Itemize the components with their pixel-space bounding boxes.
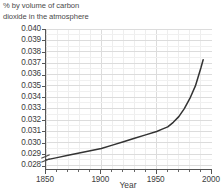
y-axis-tick-label: 0.032 [1, 116, 41, 124]
x-axis-tick-mark-minor [134, 170, 135, 172]
y-axis-tick-label: 0.034 [1, 93, 41, 101]
chart-figure: % by volume of carbon dioxide in the atm… [0, 0, 222, 192]
data-series-layer [46, 29, 212, 169]
y-axis-tick-label: 0.030 [1, 139, 41, 147]
y-axis-tick-label: 0.031 [1, 127, 41, 135]
y-axis-break-icon [41, 154, 50, 165]
x-axis-tick-mark-minor [189, 170, 190, 172]
x-axis-tick-mark-minor [167, 170, 168, 172]
x-axis-tick-mark-minor [145, 170, 146, 172]
y-axis-tick-label: 0.040 [1, 25, 41, 33]
x-axis-tick-mark-minor [67, 170, 68, 172]
plot-area [45, 29, 212, 170]
y-axis-tick-label: 0.035 [1, 82, 41, 90]
x-axis-tick-mark-minor [178, 170, 179, 172]
x-axis-tick-mark-minor [56, 170, 57, 172]
x-axis-title: Year [45, 180, 211, 190]
x-axis-tick-mark-major [156, 170, 157, 174]
y-axis-tick-label: 0.028 [1, 161, 41, 169]
x-axis-tick-mark-minor [200, 170, 201, 172]
x-axis-tick-mark-minor [89, 170, 90, 172]
x-axis-tick-mark-major [211, 170, 212, 174]
y-axis-tick-label: 0.038 [1, 48, 41, 56]
y-axis-tick-label: 0.033 [1, 104, 41, 112]
y-axis-tick-labels: 0.0280.0290.0300.0310.0320.0330.0340.035… [0, 0, 41, 192]
x-axis-tick-mark-major [100, 170, 101, 174]
y-axis-tick-label: 0.037 [1, 59, 41, 67]
y-axis-tick-label: 0.029 [1, 150, 41, 158]
x-axis-tick-mark-minor [122, 170, 123, 172]
x-axis-tick-mark-major [45, 170, 46, 174]
x-axis-tick-mark-minor [111, 170, 112, 172]
x-axis-tick-mark-minor [78, 170, 79, 172]
y-axis-tick-label: 0.039 [1, 36, 41, 44]
y-axis-tick-label: 0.036 [1, 70, 41, 78]
